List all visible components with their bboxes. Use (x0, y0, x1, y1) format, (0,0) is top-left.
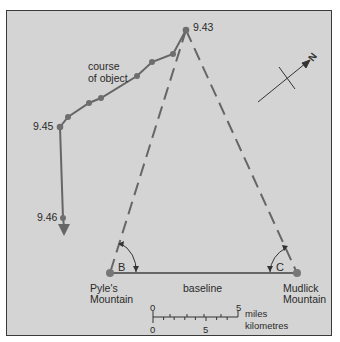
time-label-945: 9.45 (33, 121, 53, 132)
sight-line-right (186, 30, 297, 273)
baseline-label: baseline (183, 283, 222, 294)
course-label-line2: of object (88, 73, 128, 84)
angle-c-arrow-icon (267, 266, 273, 272)
compass-north-icon (258, 60, 310, 102)
station-pyles-point (106, 269, 114, 277)
angle-c-label: C (276, 262, 284, 273)
angle-b-label: B (118, 262, 125, 273)
course-path (60, 30, 186, 226)
scale-miles-zero: 0 (150, 302, 155, 313)
scale-miles-max: 5 (236, 302, 241, 313)
scale-bar (153, 311, 238, 323)
scale-miles-label: miles (245, 308, 267, 319)
course-label-line1: course (88, 61, 120, 72)
angle-b-arrow-icon (133, 266, 139, 272)
scale-km-mid: 5 (203, 324, 208, 335)
course-arrowhead-icon (58, 224, 70, 236)
station-pyles-line2: Mountain (90, 294, 133, 305)
station-mudlick-point (293, 269, 301, 277)
time-label-943: 9.43 (193, 22, 213, 33)
station-mudlick-line2: Mountain (283, 294, 326, 305)
scale-km-label: kilometres (245, 320, 288, 331)
time-label-946: 9.46 (37, 212, 57, 223)
scale-km-zero: 0 (150, 324, 155, 335)
